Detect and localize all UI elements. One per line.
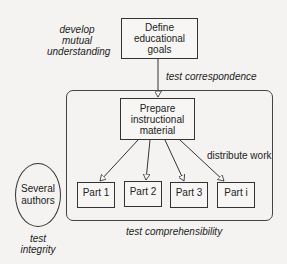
develop-understanding-annotation: develop mutual understanding bbox=[47, 24, 107, 57]
define-goals-line-3: goals bbox=[148, 44, 172, 55]
prepare-line-3: material bbox=[140, 125, 176, 136]
authors-line-1: Several bbox=[21, 183, 55, 195]
develop-line-3: understanding bbox=[47, 46, 107, 57]
define-goals-node: Define educational goals bbox=[121, 18, 198, 59]
integrity-line-2: integrity bbox=[20, 244, 56, 255]
develop-line-1: develop bbox=[47, 24, 107, 35]
part-i-label: Part i bbox=[224, 187, 247, 198]
test-integrity-annotation: test integrity bbox=[20, 233, 56, 255]
develop-line-2: mutual bbox=[47, 35, 107, 46]
integrity-line-1: test bbox=[20, 233, 56, 244]
prepare-line-2: instructional bbox=[131, 114, 184, 125]
define-goals-line-2: educational bbox=[134, 33, 185, 44]
distribute-work-annotation: distribute work bbox=[207, 150, 271, 161]
define-goals-line-1: Define bbox=[145, 22, 174, 33]
test-correspondence-annotation: test correspondence bbox=[166, 71, 257, 82]
authors-line-2: authors bbox=[21, 195, 54, 207]
part-1-label: Part 1 bbox=[83, 187, 110, 198]
part-3-node: Part 3 bbox=[170, 182, 208, 208]
prepare-material-node: Prepare instructional material bbox=[120, 98, 195, 140]
part-2-label: Part 2 bbox=[130, 186, 157, 197]
part-i-node: Part i bbox=[217, 182, 255, 208]
part-1-node: Part 1 bbox=[77, 182, 115, 208]
test-comprehensibility-annotation: test comprehensibility bbox=[126, 226, 222, 237]
several-authors-node: Several authors bbox=[15, 163, 61, 227]
part-2-node: Part 2 bbox=[124, 181, 162, 207]
part-3-label: Part 3 bbox=[176, 187, 203, 198]
prepare-line-1: Prepare bbox=[140, 103, 176, 114]
